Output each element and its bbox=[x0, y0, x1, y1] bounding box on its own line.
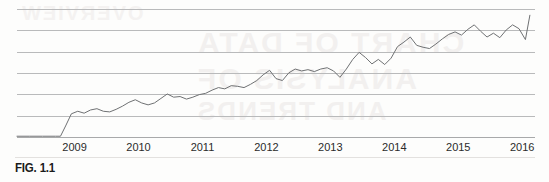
x-tick-label-2015: 2015 bbox=[446, 141, 470, 153]
x-tick-label-2013: 2013 bbox=[318, 141, 342, 153]
figure-caption: FIG. 1.1 bbox=[15, 161, 55, 175]
x-tick-label-2016: 2016 bbox=[510, 141, 534, 153]
x-tick-label-2010: 2010 bbox=[126, 141, 150, 153]
x-tick-label-2009: 2009 bbox=[62, 141, 86, 153]
x-tick-label-2014: 2014 bbox=[382, 141, 406, 153]
x-axis-tick-labels: 20092010201120122013201420152016 bbox=[0, 141, 549, 155]
chart-gridlines bbox=[17, 10, 535, 117]
figure-page: OVERVIEW CHART OF DATA ANALYSIS OF AND T… bbox=[0, 0, 549, 182]
x-tick-label-2012: 2012 bbox=[254, 141, 278, 153]
data-series-line bbox=[17, 15, 530, 136]
x-tick-label-2011: 2011 bbox=[191, 141, 215, 153]
caption-divider bbox=[15, 157, 535, 158]
